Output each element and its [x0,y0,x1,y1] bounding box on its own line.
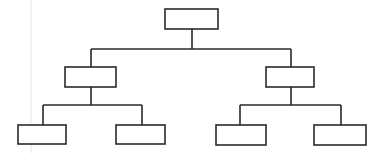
tree-node-root [165,9,218,29]
connector-root [91,29,291,67]
tree-node-left [65,67,116,87]
node-box [116,125,165,144]
tree-node-right-left [216,125,266,145]
node-box [65,67,116,87]
nodes [18,9,366,145]
tree-node-left-left [18,125,66,144]
node-box [314,125,366,145]
node-box [18,125,66,144]
connector-right [240,87,341,125]
tree-diagram [0,0,377,153]
tree-node-left-right [116,125,165,144]
node-box [266,67,314,87]
node-box [165,9,218,29]
tree-node-right-right [314,125,366,145]
node-box [216,125,266,145]
connector-left [43,87,142,125]
tree-node-right [266,67,314,87]
